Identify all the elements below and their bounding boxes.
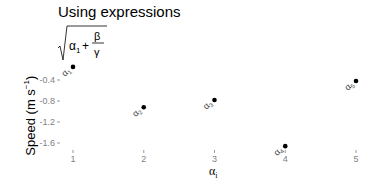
data-point (212, 98, 217, 103)
x-tick-label: 3 (212, 154, 217, 164)
data-point (354, 79, 359, 84)
x-tick-label: 2 (141, 154, 146, 164)
y-tick-label: -1.2 (39, 117, 55, 127)
scatter-chart: Using expressions α 1 + β γ Speed (m s−1… (0, 0, 374, 186)
x-tick-label: 5 (353, 154, 358, 164)
data-point (71, 65, 76, 70)
x-axis-label: αi (209, 164, 218, 180)
y-tick-label: -1.6 (39, 138, 55, 148)
data-point (141, 105, 146, 110)
plot-area: -0.4-0.8-1.2-1.612345α1α2α3α4α5 (0, 0, 374, 186)
x-tick-label: 1 (70, 154, 75, 164)
y-tick-label: -0.8 (39, 96, 55, 106)
y-tick-label: -0.4 (39, 75, 55, 85)
data-point (283, 144, 288, 149)
x-tick-label: 4 (283, 154, 288, 164)
